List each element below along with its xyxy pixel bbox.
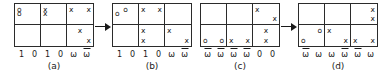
grid-cell-b-r2c1[interactable] — [113, 25, 139, 46]
grid-cell-c-r1c2[interactable] — [227, 4, 253, 25]
grid-d: xxooxxxx — [298, 3, 378, 47]
axis-label-d-1: ω — [312, 49, 325, 60]
x-mark: x — [78, 27, 82, 35]
grid-cell-a-r2c1[interactable] — [15, 25, 41, 46]
axis-label-d-0: ω — [299, 49, 312, 60]
grid-cell-b-r1c2[interactable]: xx — [139, 4, 165, 25]
grid-cell-b-r1c3[interactable] — [165, 4, 191, 25]
grid-cell-d-r2c2[interactable]: xx — [325, 25, 351, 46]
o-mark: o — [17, 10, 22, 18]
axis-label-a-0: 1 — [15, 49, 28, 60]
axis-label-text: 0 — [130, 50, 135, 59]
axis-label-text: ω — [230, 50, 237, 59]
arrow-head-icon — [291, 23, 297, 31]
axis-label-text: ω — [341, 50, 348, 59]
grid-cell-c-r2c2[interactable]: xx — [227, 25, 253, 46]
figure-panel-c: xxooxxxxωωωω00(c) — [200, 0, 280, 72]
axis-label-text: 0 — [270, 50, 275, 59]
arrow-head-icon — [105, 23, 111, 31]
axis-label-b-5: ω — [178, 49, 191, 60]
x-mark: x — [87, 37, 91, 45]
axis-label-text: 1 — [19, 50, 24, 59]
axis-labels-d: ωωωωωω — [299, 49, 377, 60]
axis-label-c-0: ω — [201, 49, 214, 60]
axis-label-d-3: ω — [338, 49, 351, 60]
o-mark: o — [123, 6, 128, 14]
axis-label-a-1: 0 — [28, 49, 41, 60]
axis-label-text: ω — [315, 50, 322, 59]
o-mark: o — [115, 10, 120, 18]
panel-gap-b-c — [192, 0, 200, 1]
grid-cell-a-r2c2[interactable] — [41, 25, 67, 46]
axis-label-b-0: 1 — [113, 49, 126, 60]
axis-label-text: ω — [70, 50, 77, 59]
x-mark: x — [158, 6, 162, 14]
axis-label-text: ω — [217, 50, 224, 59]
axis-label-c-3: ω — [240, 49, 253, 60]
x-mark: x — [141, 37, 145, 45]
axis-label-c-1: ω — [214, 49, 227, 60]
grid-cell-d-r2c3[interactable]: xx — [351, 25, 377, 46]
x-mark: x — [371, 37, 375, 45]
grid-cell-c-r1c3[interactable]: xx — [253, 4, 279, 25]
o-mark: o — [203, 37, 208, 45]
x-mark: x — [43, 10, 47, 18]
axis-label-b-1: 0 — [126, 49, 139, 60]
grid-cell-a-r1c3[interactable]: xx — [67, 4, 93, 25]
figure-panel-b: ooxxxxxx1010ωω(b) — [112, 0, 192, 72]
grid-cell-c-r2c1[interactable]: oo — [201, 25, 227, 46]
grid-cell-c-r2c3[interactable]: xx — [253, 25, 279, 46]
grid-cell-b-r2c3[interactable]: xx — [165, 25, 191, 46]
x-mark: x — [327, 27, 331, 35]
grid-cell-d-r1c1[interactable] — [299, 4, 325, 25]
axis-label-text: ω — [181, 50, 188, 59]
grid-cell-b-r2c2[interactable]: xx — [139, 25, 165, 46]
x-mark: x — [229, 37, 233, 45]
x-mark: x — [273, 15, 277, 23]
grid-cell-c-r1c1[interactable] — [201, 4, 227, 25]
panel-caption-b: (b) — [146, 61, 159, 72]
left-padding — [0, 0, 14, 1]
grid-cell-a-r1c2[interactable]: xx — [41, 4, 67, 25]
overbar-decoration — [230, 48, 237, 49]
panel-caption-a: (a) — [48, 61, 61, 72]
grid-cell-b-r1c1[interactable]: oo — [113, 4, 139, 25]
grid-a: ooxxxxxx — [14, 3, 94, 47]
arrow-c-d — [280, 0, 298, 79]
x-mark: x — [167, 27, 171, 35]
axis-labels-b: 1010ωω — [113, 49, 191, 60]
x-mark: x — [141, 27, 145, 35]
grid-cell-d-r2c1[interactable]: oo — [299, 25, 325, 46]
grid-cell-d-r1c3[interactable]: xx — [351, 4, 377, 25]
axis-label-text: 1 — [117, 50, 122, 59]
overbar-decoration — [83, 48, 90, 49]
overbar-decoration — [181, 48, 188, 49]
overbar-decoration — [354, 48, 361, 49]
x-mark: x — [141, 6, 145, 14]
x-mark: x — [371, 6, 375, 14]
axis-label-text: ω — [204, 50, 211, 59]
o-mark: o — [219, 37, 224, 45]
axis-label-text: ω — [302, 50, 309, 59]
axis-label-text: ω — [83, 50, 90, 59]
grid-cell-a-r1c1[interactable]: oo — [15, 4, 41, 25]
panel-caption-d: (d) — [332, 61, 345, 72]
x-mark: x — [353, 37, 357, 45]
axis-label-text: 1 — [45, 50, 50, 59]
overbar-decoration — [217, 48, 224, 49]
grid-cell-a-r2c3[interactable]: xx — [67, 25, 93, 46]
overbar-decoration — [243, 48, 250, 49]
x-mark: x — [255, 6, 259, 14]
axis-label-a-4: ω — [67, 49, 80, 60]
grid-cell-d-r1c2[interactable] — [325, 4, 351, 25]
axis-label-b-4: ω — [165, 49, 178, 60]
x-mark: x — [69, 6, 73, 14]
axis-labels-c: ωωωω00 — [201, 49, 279, 60]
grid-b: ooxxxxxx — [112, 3, 192, 47]
axis-label-c-4: 0 — [253, 49, 266, 60]
axis-label-d-4: ω — [351, 49, 364, 60]
figure-panel-a: ooxxxxxx1010ωω(a) — [14, 0, 94, 72]
x-mark: x — [264, 27, 268, 35]
x-mark: x — [185, 37, 189, 45]
overbar-decoration — [341, 48, 348, 49]
